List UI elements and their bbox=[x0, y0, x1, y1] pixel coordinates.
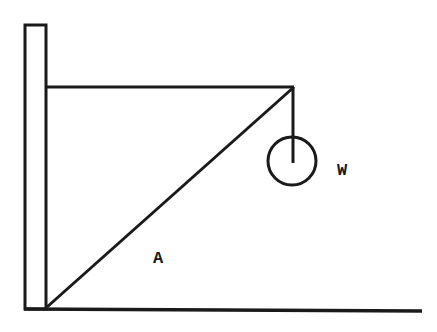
label-strut: A bbox=[153, 249, 164, 268]
label-weight: W bbox=[337, 161, 348, 180]
diagonal-strut-a bbox=[47, 87, 294, 307]
ground-line bbox=[24, 309, 422, 311]
wall bbox=[25, 25, 46, 309]
bracket-diagram: W A bbox=[0, 0, 437, 332]
